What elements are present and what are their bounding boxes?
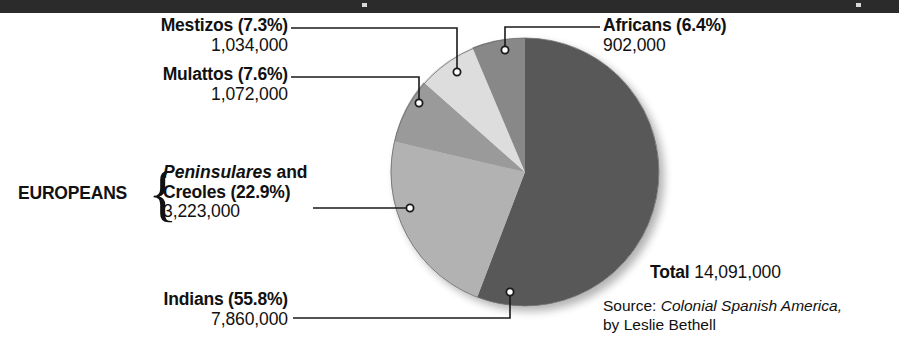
label-mulattos-value: 1,072,000 xyxy=(113,85,288,105)
endpoint-indians xyxy=(506,288,513,295)
label-indians: Indians (55.8%) 7,860,000 xyxy=(118,290,288,329)
label-africans: Africans (6.4%) 902,000 xyxy=(603,16,726,55)
label-indians-title: Indians (55.8%) xyxy=(118,290,288,310)
source-byline: by Leslie Bethell xyxy=(603,316,842,335)
pie-chart-figure: Mestizos (7.3%) 1,034,000 Mulattos (7.6%… xyxy=(0,0,899,345)
source-line1: Source: Colonial Spanish America, xyxy=(603,297,842,316)
source-title: Colonial Spanish America, xyxy=(661,297,842,314)
label-europeans-peninsulares: Peninsulares xyxy=(163,162,272,182)
pie-wedges xyxy=(391,38,659,306)
label-mestizos: Mestizos (7.3%) 1,034,000 xyxy=(113,16,288,55)
endpoint-mulattos xyxy=(415,99,422,106)
endpoint-africans xyxy=(501,46,508,53)
label-mulattos-title: Mulattos (7.6%) xyxy=(113,65,288,85)
label-africans-title: Africans (6.4%) xyxy=(603,16,726,36)
leader-line-mulattos xyxy=(291,77,419,103)
label-africans-value: 902,000 xyxy=(603,36,726,56)
source-note: Source: Colonial Spanish America, by Les… xyxy=(603,297,842,334)
label-total-value: 14,091,000 xyxy=(690,262,781,282)
label-indians-value: 7,860,000 xyxy=(118,310,288,330)
label-europeans: Peninsulares and Creoles (22.9%) 3,223,0… xyxy=(163,163,307,222)
label-europeans-line1: Peninsulares and xyxy=(163,163,307,183)
label-mulattos: Mulattos (7.6%) 1,072,000 xyxy=(113,65,288,104)
label-mestizos-value: 1,034,000 xyxy=(113,36,288,56)
label-europeans-line2: Creoles (22.9%) xyxy=(163,183,307,203)
endpoint-europeans xyxy=(406,204,413,211)
label-total: Total 14,091,000 xyxy=(650,263,781,283)
leader-line-mestizos xyxy=(291,28,457,72)
endpoint-mestizos xyxy=(453,68,460,75)
label-europeans-and: and xyxy=(272,162,307,182)
label-mestizos-title: Mestizos (7.3%) xyxy=(113,16,288,36)
label-europeans-value: 3,223,000 xyxy=(163,202,307,222)
source-prefix: Source: xyxy=(603,297,661,314)
label-europeans-group: EUROPEANS xyxy=(18,184,127,204)
label-total-word: Total xyxy=(650,262,690,282)
